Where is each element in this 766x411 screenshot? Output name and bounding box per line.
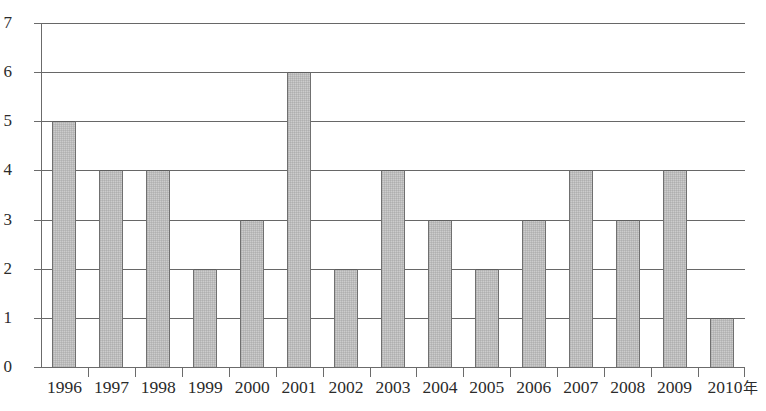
x-tick-label-1997: 1997 <box>88 378 135 397</box>
bar-2005 <box>475 269 499 367</box>
x-tick-mark-2000 <box>229 368 230 377</box>
y-tick-label-7: 7 <box>4 14 13 31</box>
bar-1998 <box>146 170 170 367</box>
x-tick-label-2005: 2005 <box>463 378 510 397</box>
x-tick-mark-2009 <box>651 368 652 377</box>
y-tick-mark-3 <box>34 220 41 221</box>
x-tick-label-2004: 2004 <box>416 378 463 397</box>
bar-2010 <box>710 318 734 367</box>
x-tick-mark-1999 <box>182 368 183 377</box>
x-tick-mark-2003 <box>370 368 371 377</box>
x-tick-label-text: 2010 <box>708 377 743 397</box>
y-tick-label-4: 4 <box>4 161 13 178</box>
x-tick-label-2006: 2006 <box>510 378 557 397</box>
x-tick-label-2003: 2003 <box>370 378 417 397</box>
bar-2003 <box>381 170 405 367</box>
y-tick-mark-1 <box>34 318 41 319</box>
x-tick-mark-2002 <box>323 368 324 377</box>
bar-2007 <box>569 170 593 367</box>
x-tick-mark-2005 <box>463 368 464 377</box>
bar-2004 <box>428 220 452 367</box>
x-tick-label-2009: 2009 <box>651 378 698 397</box>
bar-2008 <box>616 220 640 367</box>
x-tick-label-2001: 2001 <box>276 378 323 397</box>
y-tick-label-1: 1 <box>4 309 13 326</box>
x-tick-label-1996: 1996 <box>41 378 88 397</box>
y-tick-label-6: 6 <box>4 63 13 80</box>
y-tick-label-0: 0 <box>4 358 13 375</box>
y-tick-label-3: 3 <box>4 211 13 228</box>
x-tick-mark-2001 <box>276 368 277 377</box>
y-axis-line <box>41 23 42 368</box>
bar-1996 <box>52 121 76 367</box>
y-tick-mark-7 <box>34 23 41 24</box>
bar-2009 <box>663 170 687 367</box>
y-tick-mark-0 <box>34 367 41 368</box>
x-tick-mark-1998 <box>135 368 136 377</box>
x-tick-label-2010: 2010年 <box>698 378 766 397</box>
bar-2000 <box>240 220 264 367</box>
bar-1997 <box>99 170 123 367</box>
y-tick-mark-4 <box>34 170 41 171</box>
x-tick-mark-2010 <box>698 368 699 377</box>
bar-2006 <box>522 220 546 367</box>
y-tick-label-2: 2 <box>4 260 13 277</box>
bar-2001 <box>287 72 311 367</box>
x-tick-mark-2006 <box>510 368 511 377</box>
bar-2002 <box>334 269 358 367</box>
x-tick-label-1999: 1999 <box>182 378 229 397</box>
y-tick-label-5: 5 <box>4 112 13 129</box>
x-tick-label-2000: 2000 <box>229 378 276 397</box>
y-tick-mark-2 <box>34 269 41 270</box>
gridline-5 <box>41 121 745 122</box>
bar-chart: 01234567 1996199719981999200020012002200… <box>0 0 766 411</box>
x-tick-mark-2004 <box>416 368 417 377</box>
x-tick-label-2002: 2002 <box>323 378 370 397</box>
x-axis-unit-label: 年 <box>743 379 758 397</box>
gridline-6 <box>41 72 745 73</box>
x-tick-mark-1997 <box>88 368 89 377</box>
x-axis-labels: 1996199719981999200020012002200320042005… <box>41 378 751 406</box>
y-tick-mark-6 <box>34 72 41 73</box>
x-tick-mark-2008 <box>604 368 605 377</box>
x-tick-label-1998: 1998 <box>135 378 182 397</box>
x-axis-ticks <box>41 368 745 377</box>
bar-1999 <box>193 269 217 367</box>
x-tick-mark-2007 <box>557 368 558 377</box>
plot-area <box>41 23 745 367</box>
x-tick-label-2008: 2008 <box>604 378 651 397</box>
y-tick-mark-5 <box>34 121 41 122</box>
x-tick-label-2007: 2007 <box>557 378 604 397</box>
x-tick-mark-end <box>744 368 745 377</box>
gridline-7 <box>41 23 745 24</box>
